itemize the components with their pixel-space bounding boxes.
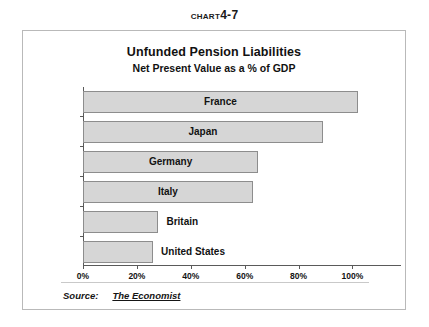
baseline-tick (80, 146, 84, 147)
bar-row: Germany (83, 151, 258, 173)
x-axis-tick (191, 265, 192, 269)
bar-label: Japan (83, 121, 323, 143)
x-axis-tick-label: 80% (290, 271, 307, 281)
baseline-tick (80, 236, 84, 237)
baseline-tick (80, 116, 84, 117)
bar (83, 211, 158, 233)
x-axis-tick-label: 20% (128, 271, 145, 281)
x-axis-tick (245, 265, 246, 269)
bar-label: France (83, 91, 358, 113)
source-divider (61, 282, 369, 283)
x-axis-tick-label: 100% (342, 271, 364, 281)
bar-label: Germany (83, 151, 258, 173)
chart-title: Unfunded Pension Liabilities (23, 45, 405, 60)
bar-row: Britain (83, 211, 158, 233)
bar-row: Italy (83, 181, 253, 203)
x-axis-tick (137, 265, 138, 269)
chart-caption: Chart4-7 (0, 8, 429, 22)
source-value: The Economist (112, 290, 180, 301)
x-axis-tick (352, 265, 353, 269)
x-axis-tick (83, 265, 84, 269)
x-axis-tick-label: 40% (182, 271, 199, 281)
bar-row: Japan (83, 121, 323, 143)
chart-titles: Unfunded Pension Liabilities Net Present… (23, 45, 405, 75)
baseline-tick (80, 176, 84, 177)
plot-area: FranceJapanGermanyItalyBritainUnited Sta… (83, 87, 401, 265)
bar-label: United States (161, 241, 225, 263)
chart-subtitle: Net Present Value as a % of GDP (23, 61, 405, 75)
bar-label: Britain (166, 211, 198, 233)
bar-row: France (83, 91, 358, 113)
figure-frame: Unfunded Pension Liabilities Net Present… (22, 30, 406, 310)
chart-caption-word: Chart (191, 8, 221, 22)
x-axis-tick-label: 0% (77, 271, 89, 281)
bar-row: United States (83, 241, 153, 263)
bar (83, 241, 153, 263)
x-axis-tick (299, 265, 300, 269)
bar-label: Italy (83, 181, 253, 203)
chart-caption-number: 4-7 (220, 8, 238, 22)
x-axis-tick-label: 60% (236, 271, 253, 281)
source-note: Source:The Economist (63, 290, 180, 301)
source-label: Source: (63, 290, 98, 301)
baseline-tick (80, 206, 84, 207)
